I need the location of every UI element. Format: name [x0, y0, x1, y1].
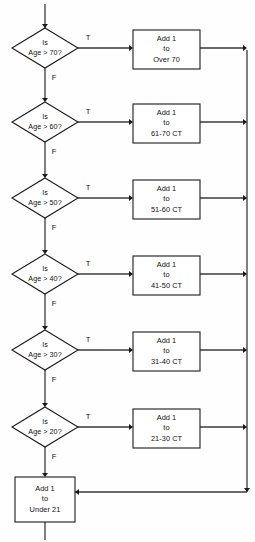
false-label-row-20: F [52, 452, 57, 461]
true-label-row-50: T [86, 183, 91, 192]
process-add-21-30-line-1: Add 1 [157, 413, 177, 422]
process-add-under-21-line-3: Under 21 [30, 505, 61, 514]
true-branch-arrowhead-row-50 [129, 195, 133, 201]
decision-age-over-50-line-2: Age > 50? [28, 198, 61, 207]
false-label-row-30: F [52, 375, 57, 384]
process-add-51-60-line-3: 51-60 CT [151, 205, 183, 214]
process-add-31-40-line-3: 31-40 CT [151, 357, 183, 366]
process-add-41-50-line-3: 41-50 CT [151, 281, 183, 290]
decision-age-over-30-line-1: Is [42, 340, 48, 349]
process-add-over-70-line-2: to [163, 44, 169, 53]
process-add-21-30-line-2: to [163, 423, 169, 432]
decision-age-over-50-line-1: Is [42, 188, 48, 197]
process-add-51-60-line-1: Add 1 [157, 184, 177, 193]
decision-age-over-20-line-2: Age > 20? [28, 427, 61, 436]
true-label-row-20: T [86, 412, 91, 421]
process-add-41-50-line-2: to [163, 270, 169, 279]
flowchart-canvas: IsAge > 70?Add 1toOver 70TFIsAge > 60?Ad… [0, 0, 255, 542]
bus-return-arrowhead [75, 489, 79, 495]
false-label-row-60: F [52, 147, 57, 156]
decision-age-over-20-line-1: Is [42, 417, 48, 426]
true-label-row-40: T [86, 259, 91, 268]
decision-age-over-40-line-1: Is [42, 264, 48, 273]
true-branch-arrowhead-row-60 [129, 119, 133, 125]
true-branch-arrowhead-row-30 [129, 347, 133, 353]
flowchart-diagram: IsAge > 70?Add 1toOver 70TFIsAge > 60?Ad… [0, 0, 255, 542]
process-add-61-70-line-2: to [163, 118, 169, 127]
true-branch-arrowhead-row-70 [129, 45, 133, 51]
decision-age-over-40-line-2: Age > 40? [28, 274, 61, 283]
process-add-21-30-line-3: 21-30 CT [151, 434, 183, 443]
true-label-row-70: T [86, 33, 91, 42]
process-add-61-70-line-3: 61-70 CT [151, 129, 183, 138]
process-add-61-70-line-1: Add 1 [157, 108, 177, 117]
process-add-under-21-line-1: Add 1 [35, 484, 55, 493]
process-add-31-40-line-1: Add 1 [157, 336, 177, 345]
decision-age-over-60-line-1: Is [42, 112, 48, 121]
true-label-row-30: T [86, 335, 91, 344]
false-label-row-70: F [52, 73, 57, 82]
process-add-over-70-line-3: Over 70 [153, 55, 180, 64]
process-add-31-40-line-2: to [163, 346, 169, 355]
decision-age-over-30-line-2: Age > 30? [28, 350, 61, 359]
false-branch-arrowhead-row-20 [42, 473, 48, 477]
process-add-41-50-line-1: Add 1 [157, 260, 177, 269]
process-add-under-21-line-2: to [42, 494, 48, 503]
process-add-51-60-line-2: to [163, 194, 169, 203]
process-add-over-70-line-1: Add 1 [157, 34, 177, 43]
decision-age-over-70-line-2: Age > 70? [28, 48, 61, 57]
true-branch-arrowhead-row-40 [129, 271, 133, 277]
false-label-row-50: F [52, 223, 57, 232]
true-label-row-60: T [86, 107, 91, 116]
false-label-row-40: F [52, 299, 57, 308]
decision-age-over-70-line-1: Is [42, 38, 48, 47]
true-branch-arrowhead-row-20 [129, 424, 133, 430]
decision-age-over-60-line-2: Age > 60? [28, 122, 61, 131]
